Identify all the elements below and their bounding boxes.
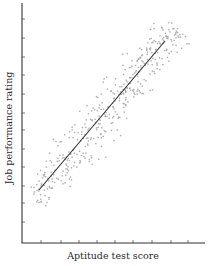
data-point: [115, 78, 117, 80]
data-point: [122, 53, 124, 55]
data-point: [156, 68, 158, 70]
data-point: [174, 34, 176, 36]
data-point: [91, 164, 93, 166]
data-point: [153, 28, 155, 30]
data-point: [66, 165, 68, 167]
data-point: [119, 86, 121, 88]
data-point: [176, 30, 178, 32]
data-point: [116, 114, 118, 116]
data-point: [90, 119, 92, 121]
data-point: [76, 166, 78, 168]
data-point: [162, 38, 164, 40]
data-point: [115, 84, 117, 86]
data-point: [90, 155, 92, 157]
data-point: [159, 69, 161, 71]
data-point: [165, 33, 167, 35]
data-point: [68, 170, 70, 172]
data-point: [69, 131, 71, 133]
data-point: [151, 64, 153, 66]
data-point: [44, 195, 46, 197]
data-point: [67, 166, 69, 168]
data-point: [103, 108, 105, 110]
data-point: [152, 70, 154, 72]
data-point: [122, 65, 124, 67]
data-point: [87, 137, 89, 139]
data-point: [95, 143, 97, 145]
data-point: [188, 43, 190, 45]
data-point: [127, 53, 129, 55]
data-point: [158, 41, 160, 43]
data-point: [137, 81, 139, 83]
data-point: [125, 99, 127, 101]
data-point: [155, 59, 157, 61]
data-point: [101, 137, 103, 139]
data-point: [135, 65, 137, 67]
data-point: [171, 22, 173, 24]
data-point: [37, 200, 39, 202]
data-point: [133, 89, 135, 91]
data-point: [102, 102, 104, 104]
data-point: [110, 90, 112, 92]
data-point: [181, 48, 183, 50]
data-point: [37, 173, 39, 175]
data-point: [147, 59, 149, 61]
data-point: [81, 131, 83, 133]
data-point: [33, 193, 35, 195]
data-point: [36, 201, 38, 203]
data-point: [67, 168, 69, 170]
data-point: [178, 37, 180, 39]
data-point: [57, 161, 59, 163]
data-point: [44, 190, 46, 192]
data-point: [45, 176, 47, 178]
data-point: [185, 36, 187, 38]
regression-line: [39, 41, 165, 190]
data-point: [180, 36, 182, 38]
data-point: [31, 186, 33, 188]
data-point: [88, 128, 90, 130]
data-point: [82, 127, 84, 129]
data-point: [69, 160, 71, 162]
data-point: [147, 63, 149, 65]
data-point: [97, 110, 99, 112]
data-point: [144, 63, 146, 65]
data-point: [117, 129, 119, 131]
data-point: [143, 79, 145, 81]
data-point: [71, 157, 73, 159]
data-point: [109, 114, 111, 116]
data-point: [113, 140, 115, 142]
data-point: [156, 64, 158, 66]
data-point: [139, 92, 141, 94]
data-point: [172, 44, 174, 46]
data-point: [99, 104, 101, 106]
data-point: [114, 93, 116, 95]
data-point: [170, 39, 172, 41]
data-point: [98, 159, 100, 161]
data-point: [141, 60, 143, 62]
data-point: [125, 97, 127, 99]
data-point: [51, 178, 53, 180]
data-point: [72, 137, 74, 139]
data-point: [138, 90, 140, 92]
data-point: [111, 130, 113, 132]
data-point: [123, 83, 125, 85]
data-point: [101, 146, 103, 148]
data-point: [71, 167, 73, 169]
data-point: [123, 107, 125, 109]
data-point: [62, 170, 64, 172]
data-point: [48, 180, 50, 182]
data-point: [139, 48, 141, 50]
data-point: [59, 155, 61, 157]
data-point: [97, 97, 99, 99]
data-point: [66, 172, 68, 174]
data-point: [149, 90, 151, 92]
data-point: [154, 73, 156, 75]
data-point: [71, 179, 73, 181]
data-point: [140, 83, 142, 85]
data-point: [162, 29, 164, 31]
data-point: [115, 111, 117, 113]
data-point: [36, 190, 38, 192]
data-point: [149, 38, 151, 40]
data-point: [81, 155, 83, 157]
data-point: [71, 129, 73, 131]
data-point: [38, 190, 40, 192]
